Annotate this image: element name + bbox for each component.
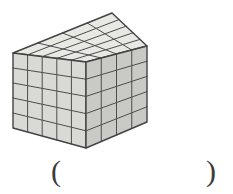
- answer-blank-close-paren: ): [206, 154, 216, 188]
- answer-blank-open-paren: (: [51, 154, 61, 188]
- worksheet-page: ( ): [0, 0, 233, 194]
- answer-blank: ( ): [0, 154, 233, 190]
